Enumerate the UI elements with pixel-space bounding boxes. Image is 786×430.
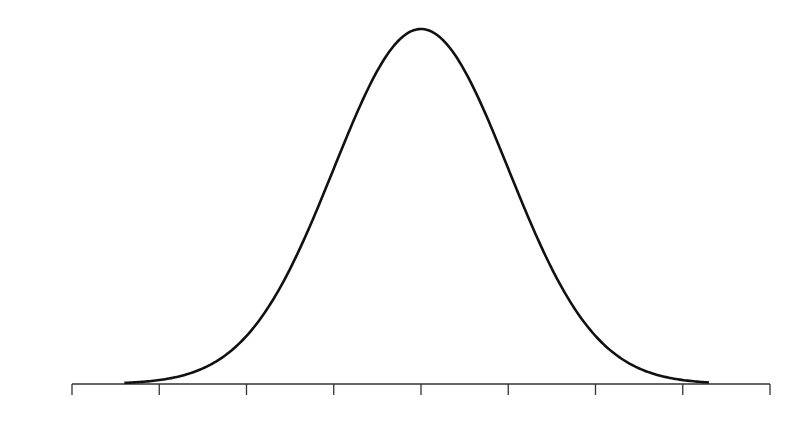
normal-distribution-chart [0,0,786,430]
bell-curve [124,29,709,383]
x-axis [72,384,770,395]
